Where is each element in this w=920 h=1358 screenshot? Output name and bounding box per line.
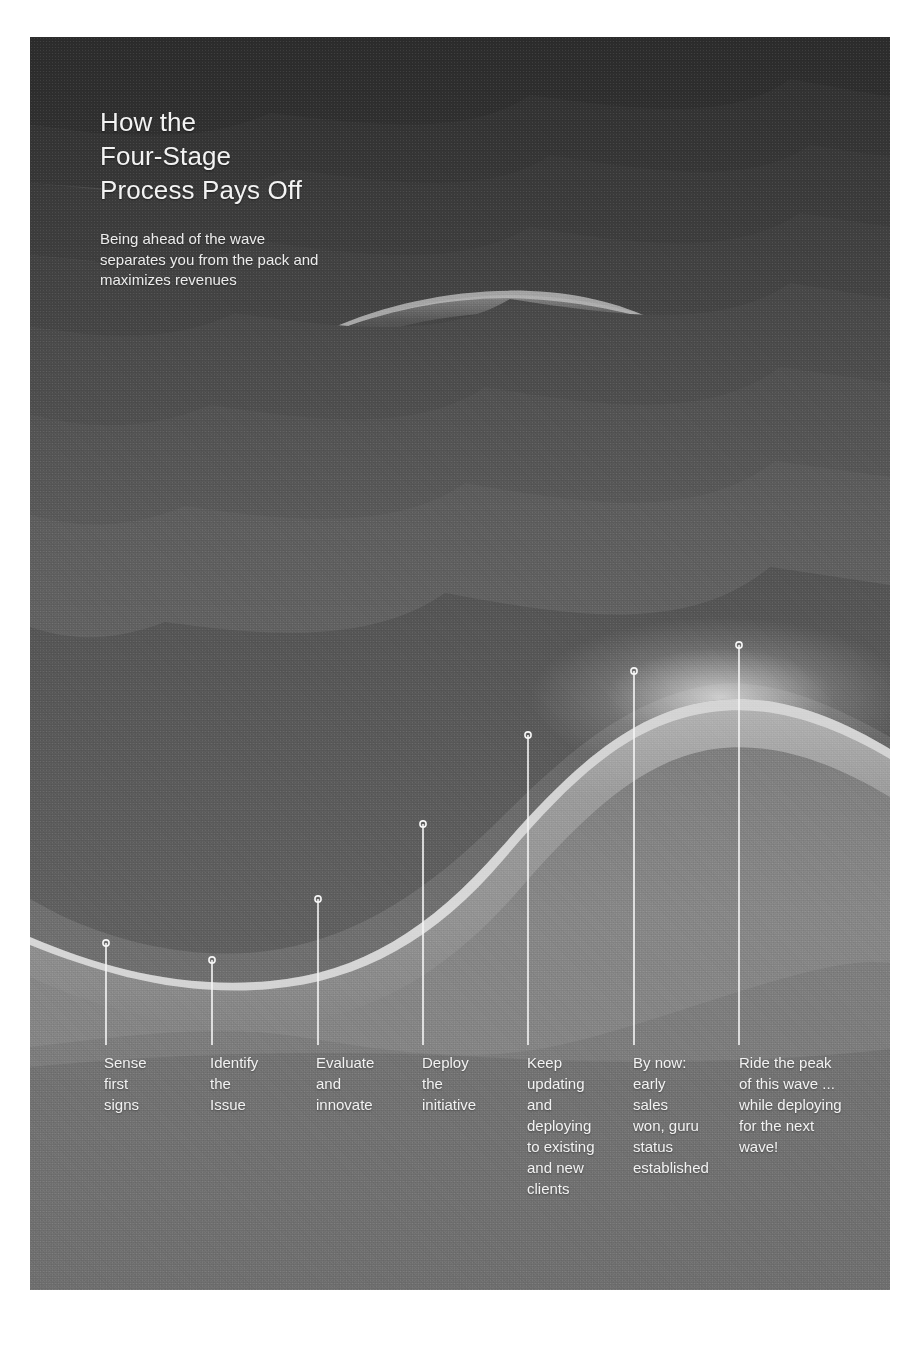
stage-label-6: By now: early sales won, guru status est…: [633, 1052, 733, 1178]
page-title: How the Four-Stage Process Pays Off: [100, 105, 302, 207]
stage-label-1: Sense first signs: [104, 1052, 204, 1115]
stage-label-7: Ride the peak of this wave ... while dep…: [739, 1052, 863, 1157]
stage-label-3: Evaluate and innovate: [316, 1052, 416, 1115]
stage-label-2: Identify the Issue: [210, 1052, 310, 1115]
page-subtitle: Being ahead of the wave separates you fr…: [100, 229, 330, 291]
stage-label-5: Keep updating and deploying to existing …: [527, 1052, 627, 1199]
poster-panel: How the Four-Stage Process Pays Off Bein…: [30, 37, 890, 1290]
stage-label-4: Deploy the initiative: [422, 1052, 522, 1115]
